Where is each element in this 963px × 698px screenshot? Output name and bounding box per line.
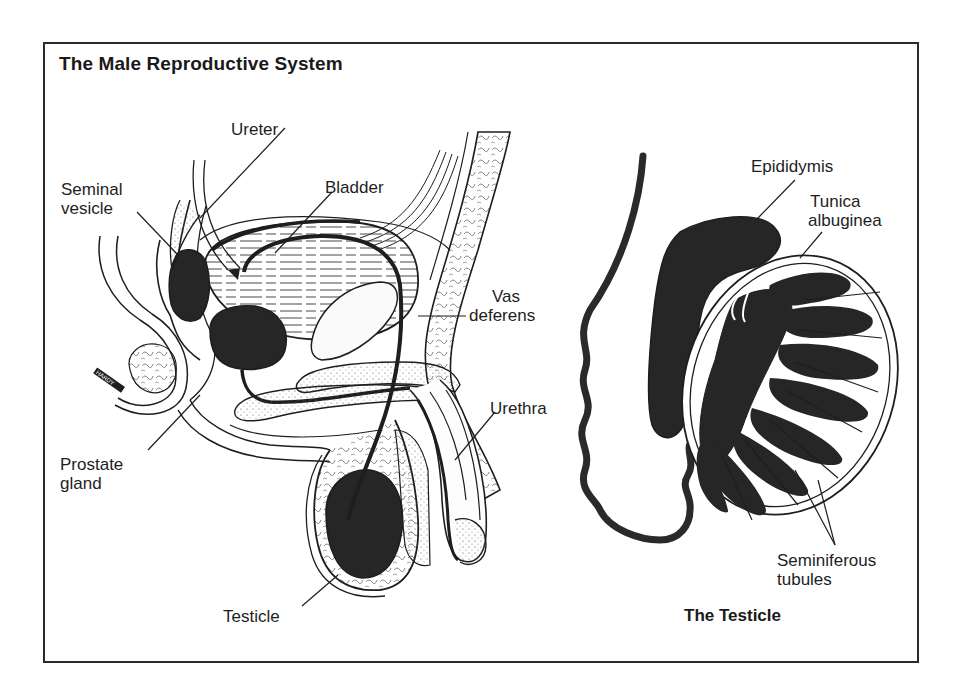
label-seminiferous-line1: Seminiferous	[777, 551, 876, 571]
label-tunica-line1: Tunica	[810, 192, 860, 212]
anatomy-illustration: HARDY	[0, 0, 963, 698]
label-epididymis: Epididymis	[751, 157, 833, 177]
label-prostate-line2: gland	[60, 474, 102, 494]
label-urethra: Urethra	[490, 399, 547, 419]
label-testicle: Testicle	[223, 607, 280, 627]
label-tunica-line2: albuginea	[808, 211, 882, 231]
label-seminiferous-line2: tubules	[777, 570, 832, 590]
label-seminal-vesicle-line1: Seminal	[61, 180, 122, 200]
label-prostate-line1: Prostate	[60, 455, 123, 475]
sagittal-section: HARDY	[93, 128, 510, 606]
label-bladder: Bladder	[325, 178, 384, 198]
artist-signature: HARDY	[95, 370, 116, 387]
label-seminal-vesicle-line2: vesicle	[61, 199, 113, 219]
testicle-caption: The Testicle	[684, 606, 781, 626]
label-vas-deferens-line1: Vas	[492, 287, 520, 307]
label-ureter: Ureter	[231, 120, 278, 140]
label-vas-deferens-line2: deferens	[469, 306, 535, 326]
